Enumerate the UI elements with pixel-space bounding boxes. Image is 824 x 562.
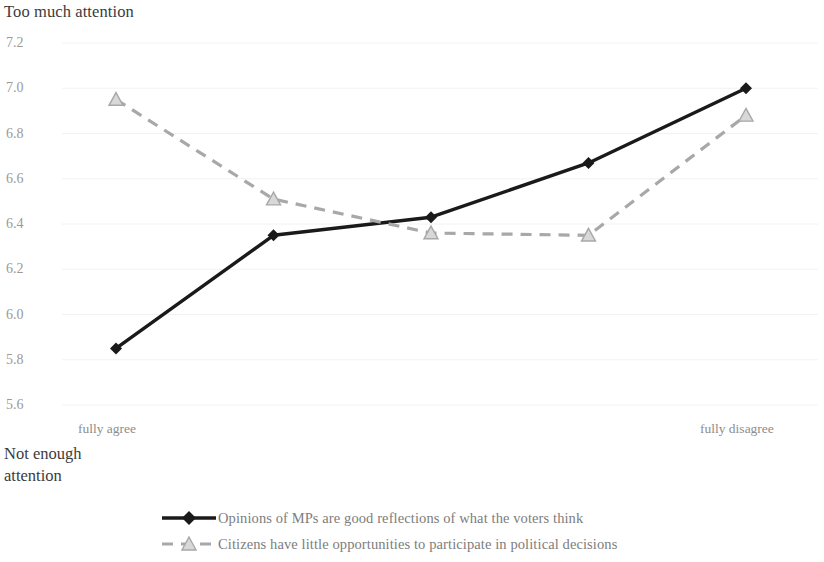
gridlines bbox=[62, 43, 818, 405]
legend-item-label: Opinions of MPs are good reflections of … bbox=[218, 510, 583, 527]
axis-bottom-label: Not enough attention bbox=[4, 443, 81, 487]
chart-legend: Opinions of MPs are good reflections of … bbox=[160, 505, 800, 557]
legend-item: Citizens have little opportunities to pa… bbox=[160, 531, 800, 557]
data-series-layer bbox=[109, 82, 753, 354]
data-point-marker bbox=[425, 211, 437, 223]
plot-area bbox=[0, 0, 824, 562]
axis-bottom-label-line2: attention bbox=[4, 465, 81, 487]
legend-marker-icon bbox=[160, 508, 218, 528]
legend-item-label: Citizens have little opportunities to pa… bbox=[218, 536, 617, 553]
data-point-marker bbox=[267, 192, 281, 205]
data-point-marker bbox=[740, 82, 752, 94]
x-axis-label-right: fully disagree bbox=[700, 421, 774, 437]
legend-item: Opinions of MPs are good reflections of … bbox=[160, 505, 800, 531]
data-point-marker bbox=[109, 93, 123, 106]
axis-bottom-label-line1: Not enough bbox=[4, 443, 81, 465]
x-axis-label-left: fully agree bbox=[78, 421, 136, 437]
data-point-marker bbox=[739, 108, 753, 121]
data-point-marker bbox=[583, 157, 595, 169]
legend-marker-icon bbox=[160, 534, 218, 554]
chart-figure: Too much attention 7.27.06.86.66.46.26.0… bbox=[0, 0, 824, 562]
